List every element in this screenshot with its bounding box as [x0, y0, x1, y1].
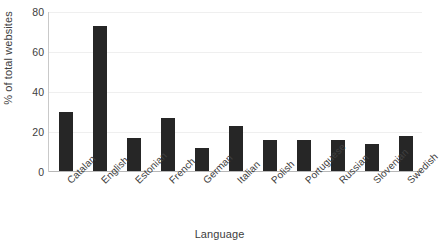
x-axis-title: Language: [0, 228, 439, 240]
bar-slot: [219, 12, 253, 172]
x-label-slot: Polish: [252, 172, 286, 222]
bar-slot: [117, 12, 151, 172]
y-axis-tick-label: 20: [20, 127, 44, 138]
x-axis-tick-labels: CatalanEnglishEstonianFrenchGermanItalia…: [48, 172, 422, 222]
bar-slot: [389, 12, 423, 172]
x-label-slot: Catalan: [48, 172, 82, 222]
y-axis-tick-label: 0: [20, 167, 44, 178]
x-label-slot: Slovenian: [354, 172, 388, 222]
bar-slot: [287, 12, 321, 172]
bar[interactable]: [229, 126, 243, 172]
bar-slot: [253, 12, 287, 172]
bar[interactable]: [195, 148, 209, 172]
bar[interactable]: [297, 140, 311, 172]
x-label-slot: Estonian: [116, 172, 150, 222]
bar[interactable]: [59, 112, 73, 172]
x-label-slot: Russian: [320, 172, 354, 222]
bar[interactable]: [161, 118, 175, 172]
y-axis-tick-label: 40: [20, 87, 44, 98]
x-label-slot: English: [82, 172, 116, 222]
x-label-slot: Portuguese: [286, 172, 320, 222]
bar[interactable]: [93, 26, 107, 172]
y-axis-title: % of total websites: [2, 0, 14, 118]
y-axis-tick-labels: 020406080: [20, 0, 44, 252]
x-label-slot: Swedish: [388, 172, 422, 222]
bar-slot: [355, 12, 389, 172]
bar-slot: [151, 12, 185, 172]
bar-series: [49, 12, 422, 172]
bar-slot: [49, 12, 83, 172]
y-axis-tick-label: 60: [20, 47, 44, 58]
x-label-slot: Italian: [218, 172, 252, 222]
x-label-slot: German: [184, 172, 218, 222]
x-label-slot: French: [150, 172, 184, 222]
bar-slot: [185, 12, 219, 172]
bar-chart: % of total websites 020406080 CatalanEng…: [0, 0, 439, 252]
bar[interactable]: [263, 140, 277, 172]
plot-area: [48, 12, 422, 172]
bar-slot: [83, 12, 117, 172]
y-axis-tick-label: 80: [20, 7, 44, 18]
bar[interactable]: [127, 138, 141, 172]
